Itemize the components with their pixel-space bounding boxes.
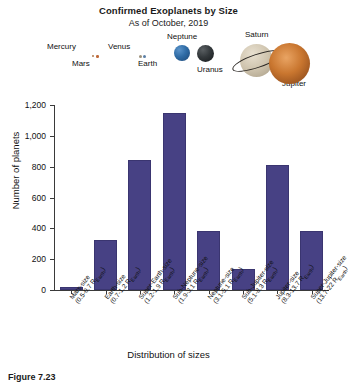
- y-axis-tick-label: 1,200: [4, 101, 46, 110]
- y-axis-tick: [50, 105, 54, 106]
- y-axis-tick-label: 400: [4, 224, 46, 233]
- y-axis-tick-label: 0: [4, 286, 46, 295]
- y-axis-tick: [50, 198, 54, 199]
- y-axis-tick-label: 200: [4, 255, 46, 264]
- y-axis-tick-label: 600: [4, 194, 46, 203]
- y-axis-tick: [50, 136, 54, 137]
- y-axis-tick-label: 1,000: [4, 132, 46, 141]
- x-axis-title: Distribution of sizes: [0, 349, 337, 360]
- y-axis-tick: [50, 167, 54, 168]
- y-axis-tick-label: 800: [4, 163, 46, 172]
- y-axis-tick: [50, 259, 54, 260]
- figure-caption: Figure 7.23: [8, 372, 337, 382]
- y-axis-tick: [50, 290, 54, 291]
- y-axis-tick: [50, 228, 54, 229]
- y-axis-line: [54, 105, 55, 291]
